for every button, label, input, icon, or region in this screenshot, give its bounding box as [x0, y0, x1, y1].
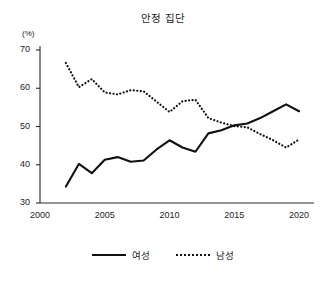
series-line-female — [66, 104, 299, 186]
chart-figure: 안정 집단 (%) 3040506070 2000200520102015202… — [0, 0, 326, 285]
y-tick-label: 30 — [8, 197, 30, 207]
series-line-male — [66, 63, 299, 148]
y-tick-label: 60 — [8, 82, 30, 92]
x-tick-label: 2020 — [279, 210, 319, 220]
x-tick-label: 2005 — [85, 210, 125, 220]
y-tick-label: 50 — [8, 121, 30, 131]
legend-item-female: 여성 — [92, 248, 150, 262]
plot-area: (%) 3040506070 20002005201020152020 — [0, 0, 326, 285]
y-tick-label: 40 — [8, 159, 30, 169]
x-tick-label: 2000 — [20, 210, 60, 220]
x-tick-label: 2015 — [214, 210, 254, 220]
y-tick-label: 70 — [8, 44, 30, 54]
legend-label-female: 여성 — [132, 248, 150, 262]
legend-label-male: 남성 — [216, 248, 234, 262]
legend-line-solid-icon — [92, 250, 126, 260]
legend-line-dotted-icon — [176, 250, 210, 260]
legend-item-male: 남성 — [176, 248, 234, 262]
plot-svg — [0, 0, 326, 285]
x-tick-label: 2010 — [150, 210, 190, 220]
chart-legend: 여성 남성 — [0, 248, 326, 262]
